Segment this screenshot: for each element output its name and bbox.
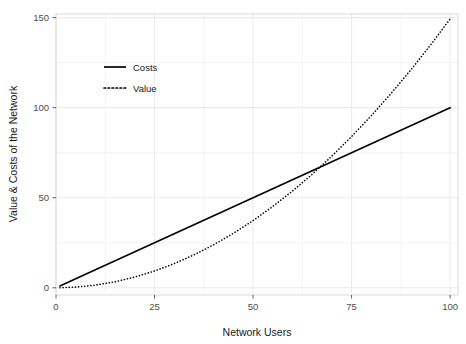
x-tick-label: 100 [442, 301, 458, 312]
y-tick-label: 50 [38, 192, 49, 203]
network-effects-line-chart: 0255075100050100150Network UsersValue & … [0, 0, 466, 344]
x-axis-title: Network Users [223, 326, 292, 338]
y-tick-label: 0 [44, 282, 49, 293]
x-axis-tick-labels: 0255075100 [53, 301, 458, 312]
plot-panel-background [56, 14, 458, 295]
legend-label-costs: Costs [133, 62, 158, 73]
x-tick-label: 50 [248, 301, 259, 312]
x-tick-label: 75 [346, 301, 357, 312]
x-tick-label: 0 [53, 301, 58, 312]
x-tick-label: 25 [149, 301, 160, 312]
y-axis-tick-labels: 050100150 [33, 12, 49, 293]
legend-label-value: Value [133, 83, 157, 94]
y-axis-title: Value & Costs of the Network [7, 85, 19, 222]
y-tick-label: 150 [33, 12, 49, 23]
chart-container: 0255075100050100150Network UsersValue & … [0, 0, 466, 344]
y-tick-label: 100 [33, 102, 49, 113]
